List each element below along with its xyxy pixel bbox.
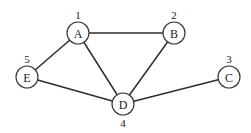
node-e: E5	[16, 53, 38, 88]
node-c: C3	[218, 53, 240, 88]
edge-layer	[27, 33, 229, 104]
node-number: 5	[24, 53, 30, 65]
graph-diagram: A1B2C3D4E5	[0, 0, 251, 133]
node-label: D	[119, 98, 128, 112]
node-number: 2	[171, 9, 177, 21]
node-label: C	[225, 71, 233, 85]
node-a: A1	[67, 9, 89, 44]
node-number: 3	[226, 53, 232, 65]
node-label: E	[23, 71, 30, 85]
node-d: D4	[112, 93, 134, 129]
node-number: 4	[120, 117, 126, 129]
node-number: 1	[75, 9, 81, 21]
node-b: B2	[163, 9, 185, 44]
node-layer: A1B2C3D4E5	[16, 9, 240, 129]
node-label: A	[74, 27, 83, 41]
node-label: B	[170, 27, 178, 41]
